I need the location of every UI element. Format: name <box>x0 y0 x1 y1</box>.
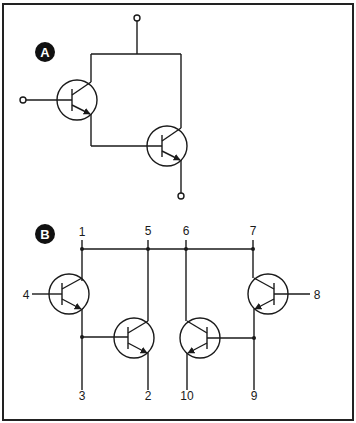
pin-9-label: 9 <box>251 389 258 403</box>
pin-3-label: 3 <box>79 389 86 403</box>
panel-b: B <box>32 224 310 390</box>
pin-4-label: 4 <box>23 288 30 302</box>
pin-7-label: 7 <box>250 224 257 238</box>
terminal-emitter <box>178 193 184 199</box>
figure-border <box>3 4 353 420</box>
schematic-figure: A B <box>0 0 356 423</box>
svg-text:B: B <box>40 227 49 242</box>
pin-1-label: 1 <box>79 225 86 239</box>
panel-a-badge: A <box>35 42 55 62</box>
terminal-collector <box>134 15 140 21</box>
svg-text:A: A <box>40 45 50 60</box>
panel-b-badge: B <box>35 224 55 244</box>
schematic-canvas: A B <box>0 0 356 423</box>
pin-5-label: 5 <box>145 224 152 238</box>
pin-10-label: 10 <box>180 389 194 403</box>
pin-8-label: 8 <box>314 288 321 302</box>
pin-2-label: 2 <box>145 389 152 403</box>
terminal-base <box>20 97 26 103</box>
panel-a: A <box>20 15 187 199</box>
pin-6-label: 6 <box>183 224 190 238</box>
transistor-t2 <box>114 318 154 358</box>
